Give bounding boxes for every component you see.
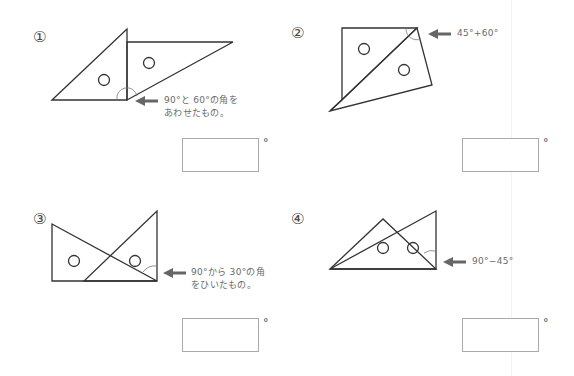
problem-3-hint-line-2: をひいたもの。 [191,279,265,292]
problem-1-hint-line-2: あわせたもの。 [164,107,238,120]
problem-1-number: ① [33,30,46,45]
figure-4-triangle-45 [330,219,436,269]
problem-2-number: ② [291,26,304,41]
figure-2-hole-left [359,44,370,55]
figure-3-hole-right [130,256,141,267]
figure-2-arrow-icon [428,29,451,39]
problem-1-hint-line-1: 90°と 60°の角を [164,94,238,107]
figure-4-angle-arc [424,251,436,253]
problem-2-degree-unit: ° [543,137,549,148]
problem-1-hint: 90°と 60°の角を あわせたもの。 [164,94,238,120]
figure-3-hole-left [69,256,80,267]
problem-2-hint-line-1: 45°+60° [457,27,499,40]
problem-3-degree-unit: ° [263,317,269,328]
problem-4-hint: 90°−45° [472,255,514,268]
figure-2-set-squares [330,28,432,111]
figure-3-angle-arc [143,266,157,272]
figure-3-triangle-45 [84,211,157,281]
figure-3-arrow-icon [163,268,186,278]
figure-4-hole-left [378,243,389,254]
figure-1-hole-left [99,75,110,86]
problem-1-answer-box[interactable] [182,138,259,172]
figure-1-set-squares [52,29,233,100]
problem-2-answer-box[interactable] [462,138,539,172]
problem-3-answer-box[interactable] [182,318,259,352]
problem-4-degree-unit: ° [543,317,549,328]
figure-1-arrow-icon [135,96,158,106]
figure-1-hole-right [144,58,155,69]
figure-3-set-squares [52,211,157,281]
figure-2-triangle-30-60 [330,28,432,111]
figure-3-triangle-30-60 [52,224,157,281]
problem-3-hint: 90°から 30°の角 をひいたもの。 [191,266,265,292]
figure-1-triangle-45 [52,29,127,100]
problem-4-number: ④ [291,212,304,227]
figure-2-hole-right [399,65,410,76]
problem-1-degree-unit: ° [263,137,269,148]
figure-4-arrow-icon [443,257,466,267]
problem-3-number: ③ [33,212,46,227]
problem-4-answer-box[interactable] [462,318,539,352]
figure-4-set-squares [330,211,436,269]
problem-3-hint-line-1: 90°から 30°の角 [191,266,265,279]
problem-4-hint-line-1: 90°−45° [472,255,514,268]
problem-2-hint: 45°+60° [457,27,499,40]
figure-1-triangle-30-60 [127,42,233,100]
